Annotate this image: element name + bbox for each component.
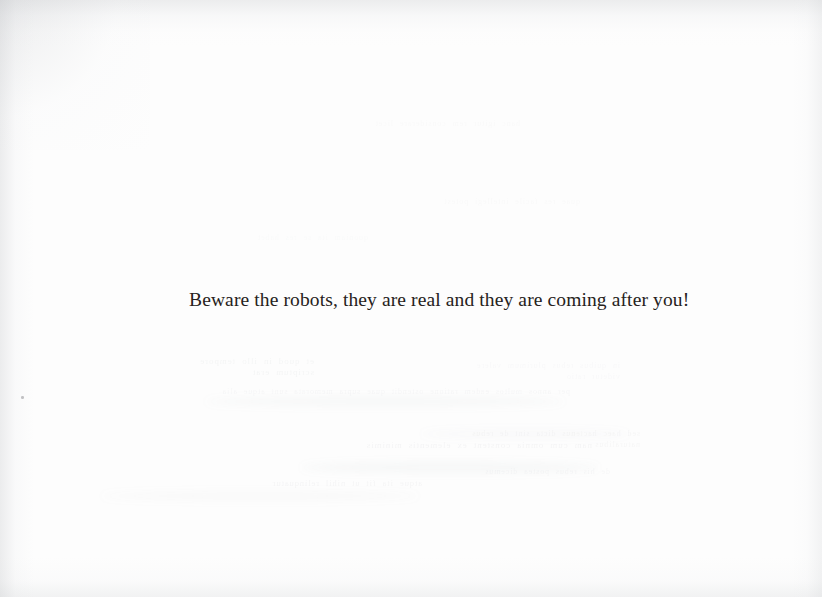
body-text-line: Beware the robots, they are real and the… bbox=[189, 288, 609, 312]
scanned-page: hanc igitur rem considerare licet quonia… bbox=[0, 0, 822, 597]
text-layer: Beware the robots, they are real and the… bbox=[0, 0, 822, 597]
